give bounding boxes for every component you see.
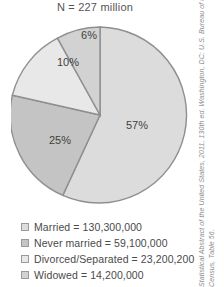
- legend-swatch-icon: [21, 239, 29, 247]
- legend-label: Divorced/Separated = 23,200,200: [34, 253, 194, 265]
- legend-label: Never married = 59,100,000: [34, 237, 168, 249]
- legend-label: Widowed = 14,200,000: [34, 269, 144, 281]
- pie-chart-svg: 57% 25% 10% 6%: [11, 16, 189, 214]
- pie-chart-figure: N = 227 million 57% 25% 10% 6% Married =…: [0, 0, 224, 287]
- source-credit-line-1: Statistical Abstract of the United State…: [198, 0, 205, 287]
- legend-item-widowed: Widowed = 14,200,000: [21, 267, 191, 283]
- pie-label-married: 57%: [126, 119, 148, 131]
- chart-title: N = 227 million: [0, 1, 190, 13]
- legend-item-never-married: Never married = 59,100,000: [21, 235, 191, 251]
- legend-swatch-icon: [21, 271, 29, 279]
- legend-item-divorced-separated: Divorced/Separated = 23,200,200: [21, 251, 191, 267]
- pie-label-widowed: 6%: [81, 29, 97, 41]
- source-credit-line-2: Census, Table 56.: [208, 229, 215, 287]
- source-credit: Statistical Abstract of the United State…: [192, 0, 224, 287]
- pie-label-divorced-separated: 10%: [57, 56, 79, 68]
- legend-label: Married = 130,300,000: [34, 221, 142, 233]
- legend-swatch-icon: [21, 223, 29, 231]
- legend-swatch-icon: [21, 255, 29, 263]
- legend: Married = 130,300,000 Never married = 59…: [21, 219, 191, 283]
- pie-chart: 57% 25% 10% 6%: [11, 16, 189, 214]
- legend-item-married: Married = 130,300,000: [21, 219, 191, 235]
- pie-label-never-married: 25%: [49, 134, 71, 146]
